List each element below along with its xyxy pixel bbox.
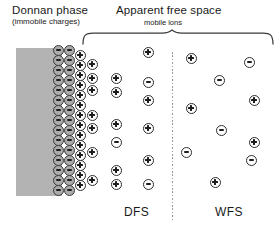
ion-fixed-negative [64,45,75,56]
plus-charge-icon [113,121,119,127]
minus-charge-icon [56,159,61,161]
plus-charge-icon [145,97,151,103]
ion-mobile-positive [75,100,86,111]
minus-charge-icon [56,149,61,151]
plus-charge-icon [77,142,83,148]
ion-mobile-positive [143,47,154,58]
ion-mobile-negative [111,137,122,148]
minus-charge-icon [56,179,61,181]
plus-charge-icon [77,72,83,78]
plus-charge-icon [77,62,83,68]
zone-label-dfs: DFS [124,205,149,219]
ion-fixed-negative [53,55,64,66]
ion-fixed-negative [53,125,64,136]
minus-charge-icon [184,151,189,153]
ion-fixed-negative [53,185,64,196]
ion-mobile-positive [87,85,98,96]
ion-mobile-positive [75,180,86,191]
ion-mobile-positive [186,103,197,114]
ion-fixed-negative [64,185,75,196]
ion-fixed-negative [53,115,64,126]
ion-mobile-negative [214,75,225,86]
ion-mobile-positive [111,119,122,130]
ion-mobile-positive [87,147,98,158]
plus-charge-icon [145,125,151,131]
plus-charge-icon [77,82,83,88]
ion-mobile-positive [75,90,86,101]
ion-fixed-negative [53,65,64,76]
plus-charge-icon [77,122,83,128]
ion-mobile-positive [111,165,122,176]
plus-charge-icon [212,179,218,185]
apparent-free-space-subtitle: mobile ions [144,18,182,27]
ion-mobile-positive [111,87,122,98]
ion-mobile-negative [246,155,257,166]
plus-charge-icon [251,97,257,103]
minus-charge-icon [67,179,72,181]
ion-mobile-positive [87,59,98,70]
ion-mobile-positive [87,73,98,84]
ion-fixed-negative [64,165,75,176]
ion-mobile-positive [143,155,154,166]
curly-brace-icon [82,29,274,45]
minus-charge-icon [67,119,72,121]
plus-charge-icon [89,87,95,93]
ion-fixed-negative [53,145,64,156]
minus-charge-icon [67,139,72,141]
plus-charge-icon [89,177,95,183]
minus-charge-icon [67,59,72,61]
plus-charge-icon [77,52,83,58]
ion-fixed-negative [53,155,64,166]
zone-label-wfs: WFS [215,205,243,219]
plus-charge-icon [77,152,83,158]
ion-mobile-positive [111,73,122,84]
minus-charge-icon [56,139,61,141]
plus-charge-icon [113,75,119,81]
minus-charge-icon [56,109,61,111]
plus-charge-icon [77,162,83,168]
minus-charge-icon [217,79,222,81]
minus-charge-icon [56,169,61,171]
plus-charge-icon [77,182,83,188]
ion-mobile-positive [143,95,154,106]
plus-charge-icon [77,92,83,98]
ion-mobile-positive [75,80,86,91]
minus-charge-icon [56,99,61,101]
ion-mobile-positive [75,60,86,71]
ion-fixed-negative [53,45,64,56]
donnan-phase-title: Donnan phase [12,4,88,16]
plus-charge-icon [113,89,119,95]
plus-charge-icon [77,102,83,108]
minus-charge-icon [247,61,252,63]
minus-charge-icon [67,49,72,51]
ion-fixed-negative [64,105,75,116]
minus-charge-icon [114,141,119,143]
minus-charge-icon [56,59,61,61]
minus-charge-icon [67,109,72,111]
ion-fixed-negative [53,85,64,96]
ion-mobile-negative [143,179,154,190]
minus-charge-icon [249,159,254,161]
ion-mobile-positive [75,110,86,121]
minus-charge-icon [56,89,61,91]
ion-fixed-negative [64,175,75,186]
plus-charge-icon [113,167,119,173]
ion-mobile-positive [210,177,221,188]
ion-fixed-negative [64,125,75,136]
minus-charge-icon [67,89,72,91]
apparent-free-space-title: Apparent free space [116,4,221,16]
minus-charge-icon [67,69,72,71]
ion-mobile-positive [75,120,86,131]
ion-mobile-positive [75,50,86,61]
minus-charge-icon [56,129,61,131]
plus-charge-icon [77,132,83,138]
minus-charge-icon [67,149,72,151]
ion-mobile-positive [186,53,197,64]
figure-canvas: Donnan phase (immobile charges) Apparent… [0,0,277,232]
ion-mobile-positive [75,150,86,161]
plus-charge-icon [89,61,95,67]
plus-charge-icon [89,75,95,81]
ion-mobile-positive [249,95,260,106]
ion-fixed-negative [53,95,64,106]
ion-fixed-negative [64,65,75,76]
